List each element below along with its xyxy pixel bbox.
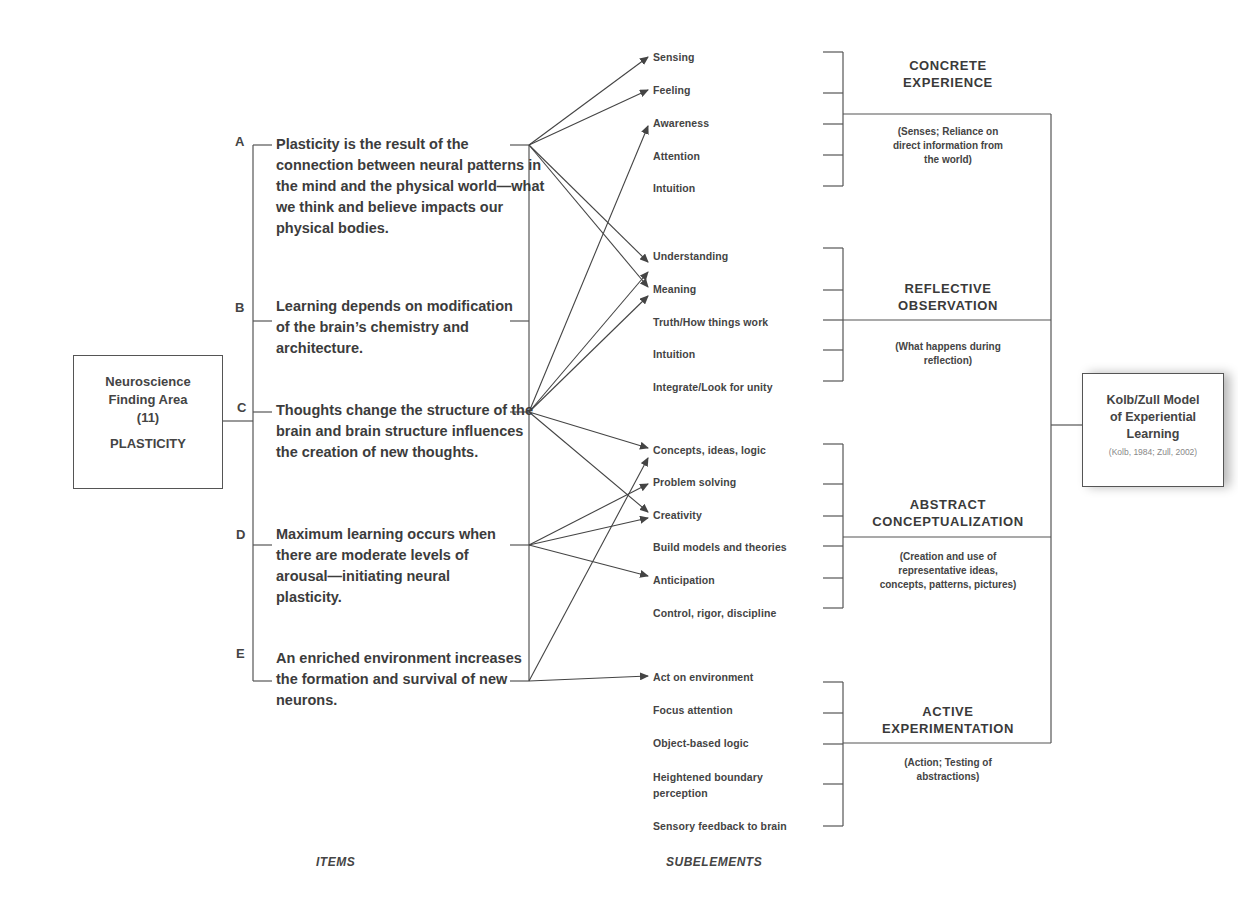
root-line-2: Finding Area <box>74 391 222 409</box>
root-title: PLASTICITY <box>74 435 222 453</box>
model-citation: (Kolb, 1984; Zull, 2002) <box>1083 447 1223 457</box>
subelement-act-on-environment: Act on environment <box>653 671 753 683</box>
subelement-control: Control, rigor, discipline <box>653 607 776 619</box>
mode-desc-line: reflection) <box>848 354 1048 368</box>
mode-abstract-desc: (Creation and use of representative idea… <box>846 550 1050 592</box>
mode-abstract-conceptualization: ABSTRACT CONCEPTUALIZATION <box>846 496 1050 530</box>
root-line-3: (11) <box>74 409 222 427</box>
mode-title: ABSTRACT <box>846 496 1050 513</box>
mode-title: CONCRETE <box>848 57 1048 74</box>
item-e-text: An enriched environment increases the fo… <box>276 648 528 711</box>
subelement-integrate: Integrate/Look for unity <box>653 381 773 393</box>
subelement-awareness: Awareness <box>653 117 709 129</box>
subelement-intuition-2: Intuition <box>653 348 695 360</box>
subelement-problem-solving: Problem solving <box>653 476 736 488</box>
mode-active-desc: (Action; Testing of abstractions) <box>848 756 1048 784</box>
mode-desc-line: (Action; Testing of <box>848 756 1048 770</box>
item-d-text: Maximum learning occurs when there are m… <box>276 524 516 608</box>
mode-title: EXPERIENCE <box>848 74 1048 91</box>
item-letter-b: B <box>235 300 244 315</box>
mode-desc-line: direct information from <box>848 139 1048 153</box>
mode-desc-line: (Creation and use of <box>846 550 1050 564</box>
root-finding-box: Neuroscience Finding Area (11) PLASTICIT… <box>73 355 223 489</box>
model-title-line-1: Kolb/Zull Model <box>1083 392 1223 409</box>
mode-reflective-observation: REFLECTIVE OBSERVATION <box>848 280 1048 314</box>
model-title-line-3: Learning <box>1083 426 1223 443</box>
mode-desc-line: (Senses; Reliance on <box>848 125 1048 139</box>
item-a-text: Plasticity is the result of the connecti… <box>276 134 546 239</box>
subelement-sensing: Sensing <box>653 51 695 63</box>
mode-title: CONCEPTUALIZATION <box>846 513 1050 530</box>
item-letter-d: D <box>236 527 245 542</box>
model-title-line-2: of Experiential <box>1083 409 1223 426</box>
subelement-intuition-1: Intuition <box>653 182 695 194</box>
root-line-1: Neuroscience <box>74 373 222 391</box>
subelement-understanding: Understanding <box>653 250 728 262</box>
subelement-focus-attention: Focus attention <box>653 704 733 716</box>
mode-desc-line: (What happens during <box>848 340 1048 354</box>
mode-desc-line: abstractions) <box>848 770 1048 784</box>
mode-title: OBSERVATION <box>848 297 1048 314</box>
subelement-creativity: Creativity <box>653 509 702 521</box>
subelement-truth: Truth/How things work <box>653 316 768 328</box>
subelement-attention: Attention <box>653 150 700 162</box>
subelement-sensory-feedback: Sensory feedback to brain <box>653 820 787 832</box>
mode-title: EXPERIMENTATION <box>848 720 1048 737</box>
mode-title: ACTIVE <box>848 703 1048 720</box>
subelement-meaning: Meaning <box>653 283 696 295</box>
subelement-concepts: Concepts, ideas, logic <box>653 444 766 456</box>
mode-desc-line: representative ideas, <box>846 564 1050 578</box>
subelements-column-label: SUBELEMENTS <box>666 855 762 869</box>
item-b-text: Learning depends on modification of the … <box>276 296 516 359</box>
mode-title: REFLECTIVE <box>848 280 1048 297</box>
mode-desc-line: the world) <box>848 153 1048 167</box>
subelement-object-based-logic: Object-based logic <box>653 737 749 749</box>
item-letter-e: E <box>236 646 245 661</box>
mode-desc-line: concepts, patterns, pictures) <box>846 578 1050 592</box>
subelement-build-models: Build models and theories <box>653 541 787 553</box>
mode-concrete-experience: CONCRETE EXPERIENCE <box>848 57 1048 91</box>
item-c-text: Thoughts change the structure of the bra… <box>276 400 546 463</box>
item-letter-c: C <box>237 400 246 415</box>
items-column-label: ITEMS <box>316 855 355 869</box>
item-letter-a: A <box>235 134 244 149</box>
subelement-anticipation: Anticipation <box>653 574 715 586</box>
mode-reflective-desc: (What happens during reflection) <box>848 340 1048 368</box>
mode-active-experimentation: ACTIVE EXPERIMENTATION <box>848 703 1048 737</box>
kolb-zull-model-box: Kolb/Zull Model of Experiential Learning… <box>1082 373 1224 487</box>
subelement-feeling: Feeling <box>653 84 690 96</box>
mode-concrete-desc: (Senses; Reliance on direct information … <box>848 125 1048 167</box>
subelement-heightened-boundary: Heightened boundary perception <box>653 769 783 801</box>
